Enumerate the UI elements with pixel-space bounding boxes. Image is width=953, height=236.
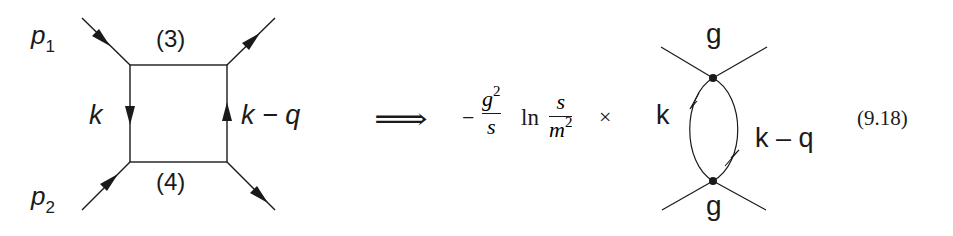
formula-times: ×	[599, 106, 611, 128]
arrow-kq-up-icon	[222, 102, 232, 121]
label-propagator-3: (3)	[156, 27, 185, 51]
vertex-bottom	[709, 177, 717, 185]
label-propagator-4: (4)	[156, 170, 185, 194]
label-p1-base: p	[31, 20, 45, 50]
box-loop	[130, 65, 227, 162]
label-k: k	[89, 102, 103, 129]
label-bubble-k: k	[656, 102, 670, 129]
bubble-leg-top-right	[713, 47, 767, 78]
fraction-g2-numerator: g2	[482, 88, 501, 110]
label-p1-subscript: 1	[45, 37, 54, 56]
label-vertex-g-bottom: g	[706, 192, 722, 220]
bubble-loop-left	[690, 78, 713, 181]
implies-arrow: ⟹	[374, 104, 428, 134]
fraction-g2-over-s: g2 s	[482, 88, 501, 138]
formula-ln: ln	[521, 106, 539, 129]
fraction-s-denominator: s	[487, 116, 496, 138]
label-vertex-g-top: g	[706, 20, 722, 48]
bubble-leg-top-left	[661, 47, 713, 78]
arrow-k-down-icon	[125, 106, 135, 125]
bubble-arrow-k-icon	[690, 93, 699, 109]
bubble-diagram	[661, 47, 767, 210]
formula-minus: −	[462, 107, 474, 129]
fraction-s-numerator: s	[556, 91, 565, 113]
bubble-vertices	[709, 74, 717, 185]
label-p1: p1	[31, 22, 55, 48]
label-p2: p2	[31, 183, 55, 209]
label-p2-base: p	[31, 181, 45, 211]
arrow-p1-icon	[92, 29, 110, 46]
label-k-minus-q: k − q	[241, 102, 300, 129]
label-p2-subscript: 2	[45, 198, 54, 217]
fraction-m2-denominator: m2	[549, 119, 572, 141]
bubble-arrow-kq-icon	[725, 150, 739, 166]
diagram-artwork	[0, 0, 953, 236]
label-bubble-k-minus-q: k – q	[755, 125, 814, 152]
equation-number: (9.18)	[857, 108, 908, 129]
vertex-top	[709, 74, 717, 82]
fraction-s-over-m2: s m2	[549, 91, 572, 141]
